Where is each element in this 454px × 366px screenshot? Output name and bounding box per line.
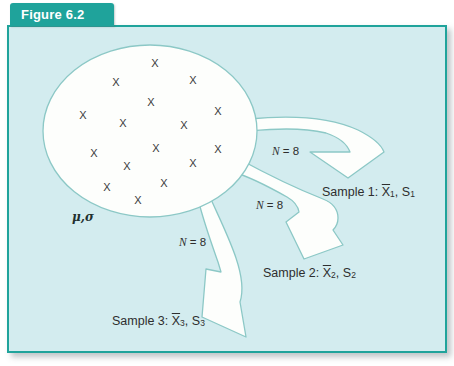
sample-2-label: Sample 2: X2, S2 xyxy=(263,266,356,280)
population-member-x: X xyxy=(119,117,126,129)
sample-2-size-value: = 8 xyxy=(264,199,284,211)
population-member-x: X xyxy=(160,177,167,189)
population-member-x: X xyxy=(79,109,86,121)
population-member-x: X xyxy=(134,194,141,206)
population-parameters-label: μ,σ xyxy=(72,210,94,224)
sample-1-arrow xyxy=(249,117,384,178)
sample-1-size-label: N = 8 xyxy=(272,145,299,157)
sample-3-xbar: X xyxy=(172,314,180,328)
population-member-x: X xyxy=(189,74,196,86)
figure-tab: Figure 6.2 xyxy=(10,3,114,26)
sample-3-label: Sample 3: X3, S3 xyxy=(112,314,205,328)
population-member-x: X xyxy=(90,147,97,159)
sample-2-arrow xyxy=(233,159,343,259)
sample-1-size-value: = 8 xyxy=(280,145,300,157)
sample-3-arrow xyxy=(198,197,246,337)
sample-1-xbar: X xyxy=(382,185,390,199)
population-member-x: X xyxy=(214,143,221,155)
population-member-x: X xyxy=(112,76,119,88)
population-member-x: X xyxy=(151,57,158,69)
sample-3-size-label: N = 8 xyxy=(179,236,206,248)
population-member-x: X xyxy=(180,119,187,131)
figure-panel: XXXXXXXXXXXXXXXX μ,σ N = 8 N = 8 N = 8 S… xyxy=(7,25,447,353)
sample-1-label: Sample 1: X1, S1 xyxy=(322,185,415,199)
sample-2-size-label: N = 8 xyxy=(256,199,283,211)
population-member-x: X xyxy=(189,157,196,169)
population-ellipse xyxy=(43,45,257,217)
sample-3-size-value: = 8 xyxy=(187,236,207,248)
population-member-x: X xyxy=(123,160,130,172)
sample-3-size-n: N xyxy=(179,236,187,248)
sample-1-size-n: N xyxy=(272,145,280,157)
sample-2-xbar: X xyxy=(323,266,331,280)
population-member-x: X xyxy=(214,105,221,117)
population-member-x: X xyxy=(103,181,110,193)
population-member-x: X xyxy=(152,142,159,154)
sample-2-size-n: N xyxy=(256,199,264,211)
population-member-x: X xyxy=(147,96,154,108)
figure-tab-label: Figure 6.2 xyxy=(10,7,84,22)
